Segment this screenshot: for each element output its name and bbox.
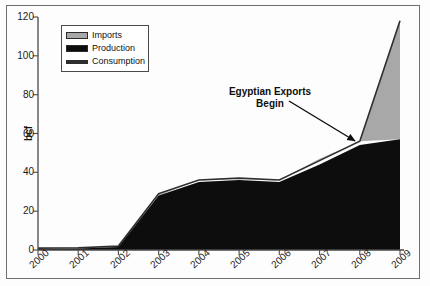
- x-tick-label-2002: 2002: [108, 247, 132, 270]
- legend-item-consumption: Consumption: [66, 55, 144, 68]
- x-tick-label-2009: 2009: [389, 247, 413, 270]
- annotation-line-1: Egyptian Exports: [209, 86, 331, 98]
- legend-swatch-consumption-icon: [66, 60, 88, 64]
- x-tick-label-2004: 2004: [188, 247, 212, 270]
- x-tick-label-2005: 2005: [228, 247, 252, 270]
- legend-swatch-imports-icon: [66, 32, 88, 39]
- x-tick-label-2006: 2006: [269, 247, 293, 270]
- x-tick-label-2001: 2001: [67, 247, 91, 270]
- legend-item-production: Production: [66, 42, 144, 55]
- chart-annotation: Egyptian Exports Begin: [209, 86, 331, 110]
- legend-label-consumption: Consumption: [92, 57, 145, 66]
- legend-swatch-production-icon: [66, 45, 88, 52]
- x-tick-label-2008: 2008: [349, 247, 373, 270]
- chart-legend: Imports Production Consumption: [61, 25, 149, 72]
- legend-label-production: Production: [92, 44, 135, 53]
- x-tick-label-2007: 2007: [309, 247, 333, 270]
- x-tick-label-2003: 2003: [148, 247, 172, 270]
- annotation-line-2: Begin: [209, 98, 331, 110]
- legend-label-imports: Imports: [92, 31, 122, 40]
- chart-figure: bcf 0 20 40 60 80 100 120 2000 2001 2002…: [0, 0, 430, 286]
- x-tick-label-2000: 2000: [27, 247, 51, 270]
- legend-item-imports: Imports: [66, 29, 144, 42]
